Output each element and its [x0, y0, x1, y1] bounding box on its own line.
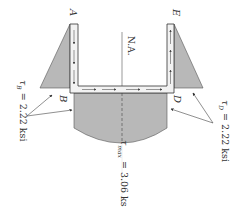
tau-d-label: τD = 2.22 ksi — [218, 100, 231, 162]
tau-max-subscript: max — [117, 145, 124, 158]
tau-b-value: = 2.22 ksi — [18, 90, 29, 142]
tau-max-value: = 3.06 ksi — [119, 158, 130, 207]
web-stress-parabola — [74, 93, 167, 143]
tau-b-leader-1 — [27, 95, 52, 116]
left-flange-stress-triangle — [40, 24, 70, 88]
shear-flow-diagram: A B D E N.A. τB = 2.22 ksi τmax = 3.06 k… — [0, 0, 233, 207]
tau-d-leader-2 — [171, 109, 213, 123]
tau-d-leader-1 — [193, 93, 213, 123]
right-flange-stress-triangle — [174, 24, 203, 88]
label-point-e: E — [171, 9, 182, 16]
neutral-axis-label: N.A. — [126, 36, 136, 56]
label-point-d: D — [172, 95, 183, 103]
label-point-b: B — [58, 95, 69, 102]
tau-b-label: τB = 2.22 ksi — [16, 80, 29, 142]
tau-d-value: = 2.22 ksi — [220, 110, 231, 162]
label-point-a: A — [68, 9, 79, 16]
tau-max-label: τmax = 3.06 ksi — [117, 140, 130, 207]
tau-b-leader-2 — [27, 110, 72, 116]
